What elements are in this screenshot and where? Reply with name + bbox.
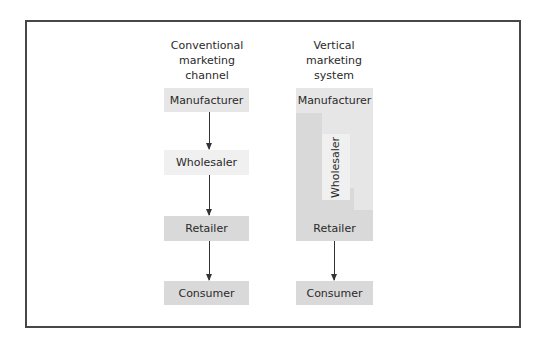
conventional-wholesaler-label: Wholesaler xyxy=(176,156,237,169)
vertical-manufacturer-label: Manufacturer xyxy=(298,94,372,107)
vertical-retailer-label: Retailer xyxy=(313,222,355,235)
vertical-manufacturer-label-area: Manufacturer xyxy=(296,88,373,112)
conventional-manufacturer-label: Manufacturer xyxy=(170,94,244,107)
conventional-retailer-box: Retailer xyxy=(164,216,249,241)
arrow-down-icon xyxy=(209,241,210,280)
vertical-consumer-box: Consumer xyxy=(296,281,373,305)
arrow-down-icon xyxy=(209,112,210,149)
vertical-heading-line-1: Vertical xyxy=(274,38,394,53)
vertical-wholesaler-box: Wholesaler xyxy=(322,134,350,200)
conventional-heading-line-3: channel xyxy=(147,68,267,83)
vertical-consumer-label: Consumer xyxy=(306,287,362,300)
conventional-consumer-label: Consumer xyxy=(178,287,234,300)
conventional-heading: Conventional marketing channel xyxy=(147,38,267,83)
conventional-heading-line-2: marketing xyxy=(147,53,267,68)
vertical-integrated-block: Wholesaler Manufacturer Retailer xyxy=(296,88,373,241)
arrow-down-icon xyxy=(334,241,335,280)
conventional-retailer-label: Retailer xyxy=(185,222,227,235)
conventional-heading-line-1: Conventional xyxy=(147,38,267,53)
arrow-down-icon xyxy=(209,175,210,215)
vertical-wholesaler-label: Wholesaler xyxy=(330,136,343,197)
vertical-heading: Vertical marketing system xyxy=(274,38,394,83)
conventional-consumer-box: Consumer xyxy=(164,281,249,305)
vertical-heading-line-3: system xyxy=(274,68,394,83)
diagram-frame xyxy=(25,20,521,328)
vertical-retailer-label-area: Retailer xyxy=(296,216,373,241)
conventional-manufacturer-box: Manufacturer xyxy=(164,88,249,112)
conventional-wholesaler-box: Wholesaler xyxy=(164,150,249,175)
vertical-heading-line-2: marketing xyxy=(274,53,394,68)
